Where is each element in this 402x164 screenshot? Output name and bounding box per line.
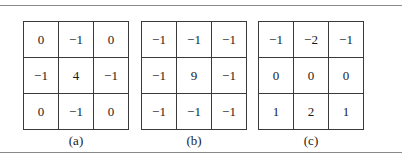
kernel-cell: 1	[259, 94, 294, 130]
panel-caption-c: (c)	[258, 133, 364, 149]
kernel-cell: −1	[259, 22, 294, 58]
kernel-cell: 1	[329, 94, 364, 130]
kernel-cell: −1	[142, 94, 177, 130]
kernel-cell: 0	[294, 58, 329, 94]
kernel-cell: −1	[177, 22, 212, 58]
kernel-cell: −1	[212, 58, 247, 94]
kernel-row: −1 −2 −1	[259, 22, 364, 58]
kernel-cell: −2	[294, 22, 329, 58]
kernel-cell: −1	[94, 58, 129, 94]
kernel-cell: −1	[142, 58, 177, 94]
kernel-cell: 0	[24, 94, 59, 130]
panel-caption-b: (b)	[141, 133, 247, 149]
kernel-cell: −1	[142, 22, 177, 58]
kernel-row: 0 −1 0	[24, 94, 129, 130]
kernel-panel-b: −1 −1 −1 −1 9 −1 −1 −1 −1 (b)	[141, 21, 247, 149]
kernel-panel-a: 0 −1 0 −1 4 −1 0 −1 0 (a)	[23, 21, 129, 149]
kernel-grid-b: −1 −1 −1 −1 9 −1 −1 −1 −1	[141, 21, 247, 130]
kernel-cell: 0	[329, 58, 364, 94]
kernel-cell: −1	[59, 22, 94, 58]
kernel-cell: −1	[212, 94, 247, 130]
kernel-row: −1 −1 −1	[142, 94, 247, 130]
kernel-cell: 0	[24, 22, 59, 58]
kernel-row: −1 9 −1	[142, 58, 247, 94]
kernel-row: −1 −1 −1	[142, 22, 247, 58]
kernel-cell: 0	[259, 58, 294, 94]
panel-caption-a: (a)	[23, 133, 129, 149]
kernel-grid-c: −1 −2 −1 0 0 0 1 2 1	[258, 21, 364, 130]
kernel-cell: −1	[177, 94, 212, 130]
kernel-cell: −1	[329, 22, 364, 58]
bottom-rule	[0, 152, 402, 153]
kernel-panel-c: −1 −2 −1 0 0 0 1 2 1 (c)	[258, 21, 364, 149]
kernel-row: 1 2 1	[259, 94, 364, 130]
kernel-row: 0 0 0	[259, 58, 364, 94]
kernel-cell: 0	[94, 94, 129, 130]
kernel-cell: −1	[24, 58, 59, 94]
kernel-row: −1 4 −1	[24, 58, 129, 94]
kernel-cell: −1	[59, 94, 94, 130]
kernel-cell: 4	[59, 58, 94, 94]
kernel-cell: 9	[177, 58, 212, 94]
kernel-cell: −1	[212, 22, 247, 58]
top-rule	[0, 5, 402, 6]
kernel-cell: 0	[94, 22, 129, 58]
kernel-grid-a: 0 −1 0 −1 4 −1 0 −1 0	[23, 21, 129, 130]
kernel-row: 0 −1 0	[24, 22, 129, 58]
kernel-cell: 2	[294, 94, 329, 130]
